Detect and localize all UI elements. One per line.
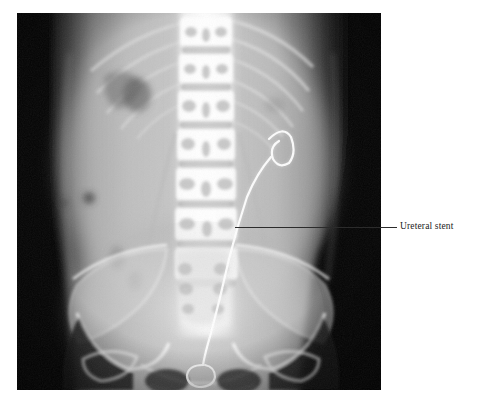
annotation-label-ureteral-stent: Ureteral stent <box>400 220 454 232</box>
film-grain <box>17 13 381 390</box>
figure-root: Ureteral stent <box>0 0 482 414</box>
annotation-leader-line <box>235 227 397 228</box>
radiograph-image <box>17 13 381 390</box>
radiograph-canvas <box>17 13 381 390</box>
